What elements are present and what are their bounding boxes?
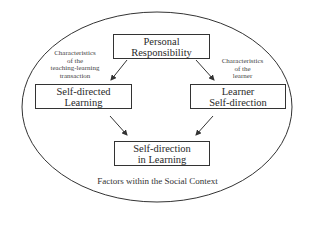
label-line: transaction (44, 73, 106, 81)
node-line: Self-direction (191, 97, 285, 108)
node-line: Learning (36, 97, 131, 108)
node-personal-responsibility: Personal Responsibility (113, 34, 210, 59)
node-line: Self-direction (115, 143, 209, 154)
arrow-lsd-to-sdil (196, 116, 213, 135)
edge-label-left: Characteristics of the teaching-learning… (44, 50, 106, 80)
node-learner-self-direction: Learner Self-direction (190, 84, 286, 109)
arrow-pr-to-sdl (111, 60, 127, 80)
node-line: Personal (114, 36, 209, 47)
arrow-sdl-to-sdil (110, 116, 127, 135)
arrow-pr-to-lsd (196, 60, 214, 80)
node-line: Learner (191, 86, 285, 97)
node-self-directed-learning: Self-directed Learning (35, 84, 132, 109)
node-line: Responsibility (114, 47, 209, 58)
node-line: Self-directed (36, 86, 131, 97)
social-context-label: Factors within the Social Context (0, 176, 315, 186)
node-self-direction-in-learning: Self-direction in Learning (114, 141, 210, 166)
node-line: in Learning (115, 154, 209, 165)
edge-label-right: Characteristics of the learner (215, 58, 270, 81)
label-line: learner (215, 73, 270, 81)
